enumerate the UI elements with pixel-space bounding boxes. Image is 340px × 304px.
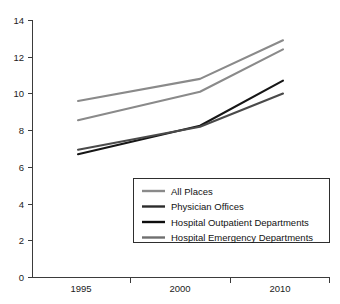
y-tick-label: 12: [13, 52, 24, 63]
x-tick-label: 2010: [269, 283, 290, 294]
chart-canvas: 14 12 10 8 6 4 2 0 1995 2000 2010: [0, 0, 340, 304]
series-line: [78, 40, 283, 101]
x-tick-label: 1995: [70, 283, 91, 294]
y-tick-label: 14: [13, 15, 24, 26]
legend-label: Hospital Outpatient Departments: [171, 217, 309, 228]
legend: All Places Physician Offices Hospital Ou…: [134, 179, 330, 244]
x-tick-marks: [131, 278, 330, 284]
legend-label: Physician Offices: [171, 201, 244, 212]
x-tick-label: 2000: [169, 283, 190, 294]
y-tick-label: 6: [19, 162, 24, 173]
legend-label: Hospital Emergency Departments: [171, 232, 313, 243]
series-line: [78, 94, 283, 150]
y-tick-label: 10: [13, 88, 24, 99]
y-tick-label: 4: [19, 199, 24, 210]
y-tick-label: 8: [19, 125, 24, 136]
y-tick-marks: [28, 21, 33, 278]
x-tick-labels: 1995 2000 2010: [70, 283, 290, 294]
y-tick-label: 2: [19, 235, 24, 246]
series-group: [78, 40, 283, 154]
line-chart: 14 12 10 8 6 4 2 0 1995 2000 2010: [0, 0, 340, 304]
legend-label: All Places: [171, 186, 213, 197]
y-tick-label: 0: [19, 272, 24, 283]
y-tick-labels: 14 12 10 8 6 4 2 0: [13, 15, 24, 283]
series-line: [78, 49, 283, 120]
